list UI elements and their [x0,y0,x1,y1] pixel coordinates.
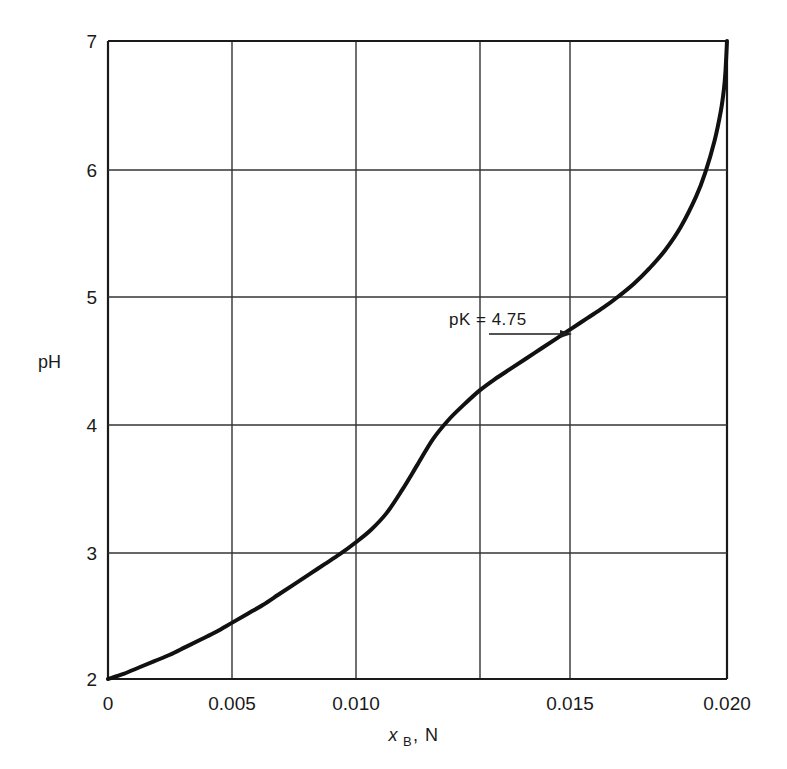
x-axis-title-units: N [425,725,438,745]
figure-background [0,0,787,769]
y-tick-label-4: 4 [86,415,97,436]
x-tick-label-0.015: 0.015 [546,693,594,714]
chart-figure: 7 6 5 4 3 2 0 0.005 0.010 0.015 0.020 pH… [0,0,787,769]
x-axis-title-separator: , [413,725,418,745]
titration-curve-chart: 7 6 5 4 3 2 0 0.005 0.010 0.015 0.020 pH… [0,0,787,769]
x-tick-label-0: 0 [103,693,114,714]
y-tick-label-5: 5 [86,287,97,308]
y-axis-title: pH [38,352,61,372]
y-tick-label-7: 7 [86,31,97,52]
x-tick-label-0.020: 0.020 [703,693,751,714]
y-tick-label-2: 2 [86,669,97,690]
x-axis-title-symbol: x [388,725,399,745]
y-tick-label-6: 6 [86,160,97,181]
x-axis-title-subscript: B [403,734,412,749]
y-tick-label-3: 3 [86,543,97,564]
pk-annotation-label: pK = 4.75 [449,310,527,329]
x-tick-label-0.005: 0.005 [208,693,256,714]
x-tick-label-0.010: 0.010 [332,693,380,714]
